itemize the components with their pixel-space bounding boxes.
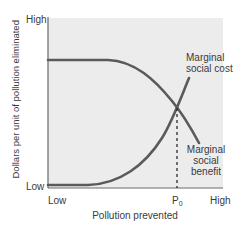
y-tick-low: Low	[26, 181, 44, 192]
benefit-label-line2: social	[181, 155, 231, 166]
cost-label-line2: social cost	[186, 63, 233, 74]
cost-curve-label: Marginal social cost	[186, 52, 233, 74]
cost-label-line1: Marginal	[186, 52, 233, 63]
x-tick-p0: P0	[172, 195, 183, 209]
marginal-cost-benefit-chart: High Low Dollars per unit of pollution e…	[0, 0, 248, 235]
p0-label: P	[172, 195, 179, 206]
y-axis-title: Dollars per unit of pollution eliminated	[10, 29, 21, 179]
p0-subscript: 0	[179, 200, 183, 207]
x-tick-low: Low	[48, 195, 66, 206]
x-axis-title: Pollution prevented	[48, 210, 222, 221]
y-tick-high: High	[26, 14, 47, 25]
benefit-label-line3: benefit	[181, 166, 231, 177]
benefit-label-line1: Marginal	[181, 144, 231, 155]
benefit-curve-label: Marginal social benefit	[181, 144, 231, 177]
x-tick-high: High	[210, 195, 231, 206]
